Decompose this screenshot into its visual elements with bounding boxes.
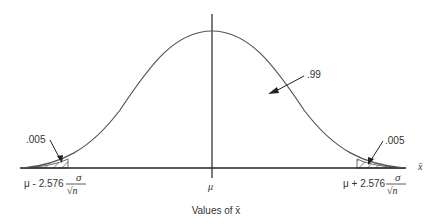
right-tail-prob-label: .005	[385, 135, 405, 146]
right-tail-shading	[357, 159, 405, 168]
left-sqrt-n: √n	[67, 185, 78, 196]
left-sigma: σ	[76, 171, 82, 183]
right-bound-label: μ + 2.576	[343, 178, 386, 189]
center-prob-label: .99	[307, 69, 321, 80]
center-arrow-head	[268, 87, 279, 94]
left-tail-prob-label: .005	[26, 134, 46, 145]
normal-curve-chart: .005 .005 .99 μ μ - 2.576 σ √n μ + 2.576…	[0, 0, 448, 224]
right-tail-arrow	[371, 141, 383, 160]
normal-curve	[22, 31, 405, 168]
mu-label: μ	[207, 181, 213, 192]
left-bound-label: μ - 2.576	[24, 178, 64, 189]
right-sigma: σ	[395, 171, 401, 183]
right-sqrt-n: √n	[387, 185, 398, 196]
x-axis-title: Values of x̄	[192, 205, 241, 216]
center-arrow	[274, 76, 304, 92]
axis-end-label: x̄	[417, 161, 423, 172]
